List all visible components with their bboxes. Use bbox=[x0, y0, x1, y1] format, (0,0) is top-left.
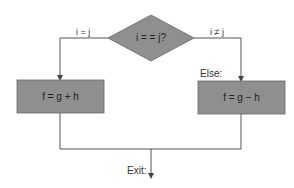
exit-label: Exit: bbox=[127, 166, 146, 176]
decision-label: i = = j? bbox=[108, 33, 194, 43]
else-label: Else: bbox=[200, 69, 222, 79]
process-true-label: f = g + h bbox=[17, 92, 104, 102]
true-branch-label: i = j bbox=[76, 28, 90, 37]
false-branch-label: i ≠ j bbox=[210, 28, 224, 37]
process-false-label: f = g − h bbox=[198, 93, 285, 103]
true-branch-line bbox=[60, 38, 108, 78]
merge-line bbox=[60, 113, 241, 149]
